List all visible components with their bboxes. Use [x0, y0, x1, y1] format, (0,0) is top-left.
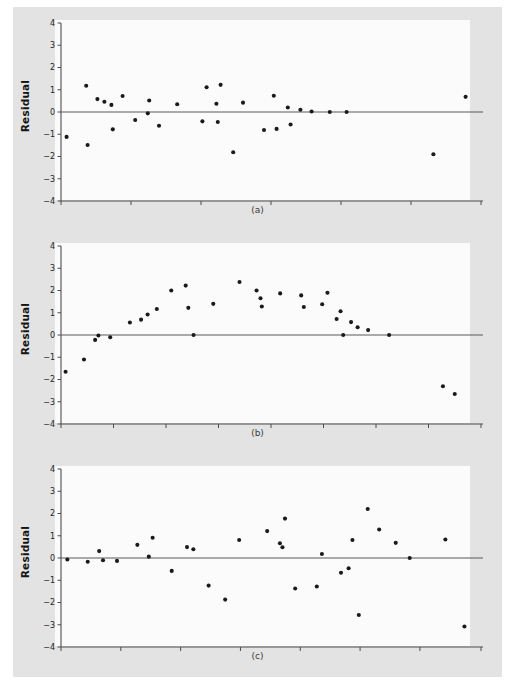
svg-text:4: 4 — [50, 465, 55, 474]
svg-text:1: 1 — [50, 532, 55, 541]
svg-text:0: 0 — [50, 108, 55, 117]
svg-text:−2: −2 — [43, 375, 55, 384]
svg-text:3: 3 — [50, 41, 55, 50]
panel-c-caption: (c) — [13, 651, 502, 661]
svg-text:2: 2 — [50, 286, 55, 295]
svg-text:−3: −3 — [43, 398, 55, 407]
svg-text:−1: −1 — [43, 353, 55, 362]
svg-text:−1: −1 — [43, 576, 55, 585]
svg-text:−2: −2 — [43, 598, 55, 607]
svg-text:2: 2 — [50, 509, 55, 518]
svg-text:4: 4 — [50, 242, 55, 251]
svg-text:3: 3 — [50, 264, 55, 273]
svg-text:−3: −3 — [43, 621, 55, 630]
panel-c: Residual −4−3−2−101234 (c) — [13, 453, 502, 677]
svg-text:1: 1 — [50, 86, 55, 95]
svg-text:4: 4 — [50, 19, 55, 28]
svg-text:−1: −1 — [43, 130, 55, 139]
panel-a-caption: (a) — [13, 205, 502, 215]
figure-page: Residual −4−3−2−101234 (a) Residual −4−3… — [0, 0, 511, 700]
svg-text:1: 1 — [50, 309, 55, 318]
svg-text:−2: −2 — [43, 152, 55, 161]
svg-text:3: 3 — [50, 487, 55, 496]
svg-text:0: 0 — [50, 331, 55, 340]
svg-text:0: 0 — [50, 554, 55, 563]
panel-b-caption: (b) — [13, 428, 502, 438]
svg-text:2: 2 — [50, 63, 55, 72]
panel-a-chart: −4−3−2−101234 — [13, 7, 502, 217]
panel-a: Residual −4−3−2−101234 (a) — [13, 7, 502, 230]
panel-b: Residual −4−3−2−101234 (b) — [13, 230, 502, 453]
panel-c-chart: −4−3−2−101234 — [13, 453, 502, 663]
svg-text:−3: −3 — [43, 175, 55, 184]
panel-b-chart: −4−3−2−101234 — [13, 230, 502, 440]
